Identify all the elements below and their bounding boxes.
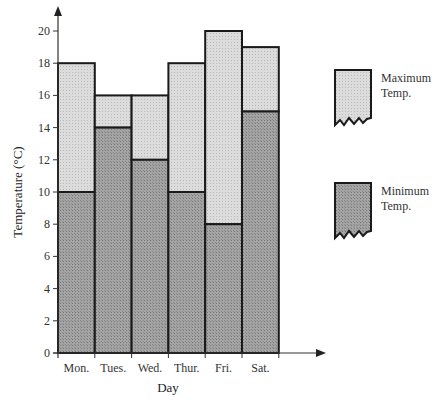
y-axis-title: Temperature (°C) — [10, 146, 25, 237]
max-temp-segment — [205, 31, 242, 224]
y-tick-label: 8 — [44, 217, 50, 231]
y-tick-label: 18 — [38, 56, 50, 70]
bar-wed — [132, 95, 169, 353]
x-tick-label: Wed. — [138, 361, 163, 375]
max-temp-segment — [95, 95, 132, 127]
max-temp-segment — [58, 63, 95, 192]
min-temp-segment — [58, 192, 95, 353]
min-temp-segment — [95, 128, 132, 353]
max-temp-segment — [242, 47, 279, 111]
y-tick-label: 6 — [44, 249, 50, 263]
y-tick-label: 14 — [38, 121, 50, 135]
legend-min-temp: MinimumTemp. — [335, 183, 430, 238]
temperature-chart: 02468101214161820 Mon.Tues.Wed.Thur.Fri.… — [0, 0, 443, 409]
y-tick-label: 4 — [44, 282, 50, 296]
legend-label: Temp. — [381, 86, 411, 100]
legend-swatch — [335, 70, 371, 125]
x-axis-arrow-icon — [316, 349, 326, 357]
legend-label: Temp. — [381, 199, 411, 213]
y-tick-label: 10 — [38, 185, 50, 199]
min-temp-segment — [205, 224, 242, 353]
x-tick-label: Mon. — [64, 361, 90, 375]
y-axis: 02468101214161820 — [38, 6, 62, 360]
y-tick-label: 16 — [38, 88, 50, 102]
max-temp-segment — [168, 63, 205, 192]
legend-swatch — [335, 183, 371, 238]
legend-max-temp: MaximumTemp. — [335, 70, 432, 125]
bar-fri — [205, 31, 242, 353]
x-tick-label: Tues. — [100, 361, 126, 375]
y-axis-arrow-icon — [54, 6, 62, 16]
bars-group — [58, 31, 279, 353]
y-tick-label: 12 — [38, 153, 50, 167]
bar-sat — [242, 47, 279, 353]
min-temp-segment — [132, 160, 169, 353]
legend-label: Maximum — [381, 71, 432, 85]
y-tick-label: 0 — [44, 346, 50, 360]
x-tick-label: Sat. — [251, 361, 269, 375]
x-tick-label: Thur. — [174, 361, 200, 375]
x-tick-label: Fri. — [215, 361, 232, 375]
x-axis-title: Day — [157, 380, 179, 395]
legend: MaximumTemp.MinimumTemp. — [335, 70, 432, 238]
legend-label: Minimum — [381, 184, 430, 198]
bar-thur — [168, 63, 205, 353]
bar-tues — [95, 95, 132, 353]
max-temp-segment — [132, 95, 169, 159]
bar-mon — [58, 63, 95, 353]
min-temp-segment — [242, 112, 279, 354]
y-tick-label: 2 — [44, 314, 50, 328]
x-axis: Mon.Tues.Wed.Thur.Fri.Sat. — [53, 349, 326, 375]
min-temp-segment — [168, 192, 205, 353]
y-tick-label: 20 — [38, 24, 50, 38]
